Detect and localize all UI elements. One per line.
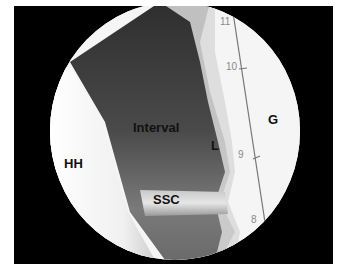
scale-tick-label: 11 [220, 17, 230, 27]
label-ligament: L [211, 139, 219, 152]
label-ssc: SSC [153, 193, 180, 206]
scale-tick-label: 9 [238, 150, 244, 160]
label-glenoid: G [268, 113, 278, 126]
scale-tick-label: 10 [226, 62, 237, 72]
arthroscope-frame [14, 6, 333, 264]
figure-canvas: HH Interval SSC L G 11 10 9 8 [0, 0, 343, 278]
scale-tick-label: 8 [251, 215, 257, 225]
label-interval: Interval [133, 121, 179, 134]
label-humeral-head: HH [64, 157, 83, 170]
